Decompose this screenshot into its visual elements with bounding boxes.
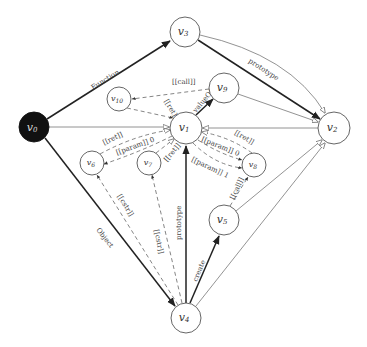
node-v7[interactable]: v7 — [137, 151, 161, 175]
edge-label-prototype-v3-v2: prototype — [247, 57, 280, 82]
node-v3[interactable]: v3 — [170, 17, 200, 47]
node-v9[interactable]: v9 — [209, 73, 239, 103]
node-v8[interactable]: v8 — [242, 153, 266, 177]
edge-label-ret-v7-v1: [[ret]] — [162, 142, 182, 164]
edge-v10-v1 — [127, 108, 173, 118]
diagram-canvas: Function Object prototype prototype [[ca… — [0, 0, 367, 347]
edge-label-create: create — [191, 259, 207, 283]
node-v1[interactable]: v1 — [170, 112, 202, 144]
node-v5[interactable]: v5 — [209, 205, 239, 235]
node-v6[interactable]: v6 — [80, 151, 104, 175]
edge-v4-v5 — [190, 236, 219, 303]
edge-label-call-v5-v8: [[call]] — [229, 176, 246, 201]
edge-label-ret-v6-v1: [[ret]] — [101, 130, 124, 146]
edge-label-prototype-v4-v1: prototype — [175, 206, 183, 240]
node-v0[interactable]: v0 — [19, 112, 49, 142]
nodes: v0 v1 v2 v3 v4 v5 v6 v7 — [19, 17, 350, 333]
edge-label-object: Object — [94, 226, 115, 249]
edge-label-cstr-v4-v6: [[cstr]] — [115, 193, 135, 218]
edge-label-call-v9-v10: [[call]] — [172, 78, 196, 86]
node-v2[interactable]: v2 — [318, 112, 350, 144]
edge-label-cstr-v4-v7: [[cstr]] — [152, 229, 165, 255]
edge-v9-v2 — [238, 94, 318, 122]
node-v10[interactable]: v10 — [107, 87, 131, 111]
edge-label-param1-v1-v8: [[param]] 1 — [190, 156, 230, 180]
edge-v9-v10 — [132, 89, 209, 99]
edge-label-ret-v8-v1: [[ret]] — [233, 129, 256, 147]
node-v4[interactable]: v4 — [171, 303, 201, 333]
